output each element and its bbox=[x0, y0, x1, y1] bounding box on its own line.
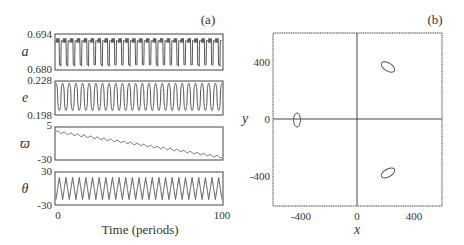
orbit-loop-upper bbox=[380, 60, 397, 75]
subplot-xy: 400 0 -400 y -400 0 400 x bbox=[240, 33, 442, 237]
subplot-varpi: 5 -30 ϖ bbox=[20, 119, 223, 165]
xy-ytick-neg400: -400 bbox=[250, 170, 271, 182]
e-ytick-top: 0.228 bbox=[27, 74, 52, 86]
varpi-ytick-bottom: -30 bbox=[37, 153, 52, 165]
xy-xtick-0: 0 bbox=[354, 210, 360, 222]
xy-xlabel: x bbox=[353, 222, 361, 237]
orbit-loop-lower bbox=[380, 166, 397, 180]
e-ylabel: e bbox=[22, 90, 28, 105]
subplot-e: 0.228 0.198 e bbox=[22, 74, 223, 121]
trace-e bbox=[56, 83, 222, 110]
xy-xtick-400: 400 bbox=[406, 210, 423, 222]
subplot-varpi-frame bbox=[55, 127, 223, 160]
time-xtick-100: 100 bbox=[214, 209, 231, 221]
panel-b-tag: (b) bbox=[427, 12, 442, 27]
subplot-a: 0.694 0.680 a bbox=[22, 28, 224, 75]
orbit-loop-left bbox=[294, 113, 301, 127]
varpi-ylabel: ϖ bbox=[20, 136, 30, 151]
xy-ytick-0: 0 bbox=[265, 113, 271, 125]
subplot-theta-frame bbox=[55, 172, 223, 205]
time-xtick-0: 0 bbox=[55, 209, 61, 221]
xy-ytick-400: 400 bbox=[254, 56, 271, 68]
subplot-theta: 30 -30 θ bbox=[22, 165, 223, 211]
trace-theta bbox=[56, 178, 222, 200]
xy-xtick-neg400: -400 bbox=[291, 210, 312, 222]
a-ytick-top: 0.694 bbox=[27, 28, 52, 40]
trace-varpi bbox=[56, 131, 222, 158]
panel-a-tag: (a) bbox=[201, 12, 215, 27]
time-xlabel: Time (periods) bbox=[101, 222, 178, 237]
trace-a bbox=[56, 38, 222, 66]
theta-ytick-top: 30 bbox=[41, 165, 53, 177]
a-ylabel: a bbox=[22, 44, 29, 59]
figure: (a) 0.694 0.680 a 0.228 0.198 e 5 -30 ϖ … bbox=[0, 0, 464, 245]
theta-ytick-bottom: -30 bbox=[37, 199, 52, 211]
xy-ylabel: y bbox=[240, 111, 249, 126]
varpi-ytick-top: 5 bbox=[47, 119, 53, 131]
theta-ylabel: θ bbox=[22, 181, 29, 196]
